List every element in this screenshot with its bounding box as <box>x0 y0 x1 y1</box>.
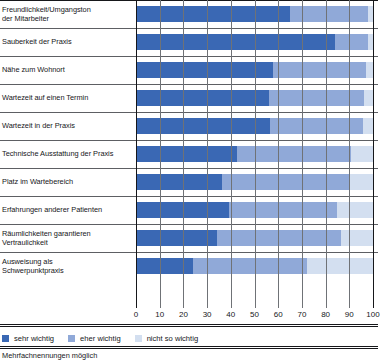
chart-row: Räumlichkeiten garantierenVertraulichkei… <box>0 224 378 252</box>
legend-label: nicht so wichtig <box>147 334 199 343</box>
chart-rows: Freundlichkeit/Umgangstonder Mitarbeiter… <box>0 0 378 308</box>
chart-row: Wartezeit in der Praxis <box>0 112 378 140</box>
bar-segment-3 <box>368 34 373 50</box>
category-label: Ausweisung alsSchwerpunktpraxis <box>2 252 132 280</box>
x-axis-tick-label: 40 <box>226 310 235 319</box>
bar-segment-3 <box>368 6 373 22</box>
category-label: Wartezeit auf einen Termin <box>2 84 132 112</box>
bar-segment-3 <box>363 118 373 134</box>
stacked-bar <box>136 258 373 274</box>
x-axis-tick-label: 60 <box>274 310 283 319</box>
category-label: Wartezeit in der Praxis <box>2 112 132 140</box>
stacked-bar <box>136 230 373 246</box>
bar-cell <box>136 224 373 252</box>
bar-segment-1 <box>136 90 269 106</box>
chart-row: Sauberkeit der Praxis <box>0 28 378 56</box>
category-label: Nähe zum Wohnort <box>2 56 132 84</box>
category-label-line: Wartezeit auf einen Termin <box>2 93 132 102</box>
x-axis-tick-label: 30 <box>203 310 212 319</box>
stacked-bar <box>136 6 373 22</box>
axis-rule-bottom <box>0 326 378 327</box>
bar-segment-2 <box>237 146 352 162</box>
bar-segment-1 <box>136 146 237 162</box>
chart-row: Nähe zum Wohnort <box>0 56 378 84</box>
x-axis-tick-label: 100 <box>366 310 379 319</box>
bar-cell <box>136 140 373 168</box>
chart-row: Technische Ausstattung der Praxis <box>0 140 378 168</box>
bar-segment-1 <box>136 230 217 246</box>
bar-cell <box>136 84 373 112</box>
chart-row: Platz im Wartebereich <box>0 168 378 196</box>
category-label: Räumlichkeiten garantierenVertraulichkei… <box>2 224 132 252</box>
legend-label: sehr wichtig <box>14 334 54 343</box>
category-label-line: Freundlichkeit/Umgangston <box>2 5 132 14</box>
chart-row: Wartezeit auf einen Termin <box>0 84 378 112</box>
category-label-line: Sauberkeit der Praxis <box>2 37 132 46</box>
chart-row: Erfahrungen anderer Patienten <box>0 196 378 224</box>
bar-segment-3 <box>364 90 373 106</box>
category-label-line: Vertraulichkeit <box>2 238 132 247</box>
bar-segment-2 <box>229 202 337 218</box>
bar-segment-3 <box>349 174 373 190</box>
bar-segment-3 <box>337 202 373 218</box>
category-label-line: Schwerpunktpraxis <box>2 266 132 275</box>
bar-segment-3 <box>366 62 373 78</box>
bar-segment-1 <box>136 34 335 50</box>
bar-segment-2 <box>222 174 349 190</box>
chart-row: Freundlichkeit/Umgangstonder Mitarbeiter <box>0 0 378 28</box>
category-label: Technische Ausstattung der Praxis <box>2 140 132 168</box>
bar-cell <box>136 168 373 196</box>
legend-item[interactable]: eher wichtig <box>68 334 121 343</box>
legend-swatch-icon <box>68 335 75 342</box>
legend-swatch-icon <box>135 335 142 342</box>
legend-rule-bottom <box>0 348 378 349</box>
bar-cell <box>136 112 373 140</box>
x-axis: 0102030405060708090100 <box>136 308 379 324</box>
bar-segment-2 <box>290 6 368 22</box>
bar-segment-2 <box>273 62 365 78</box>
x-axis-tick-label: 10 <box>155 310 164 319</box>
x-axis-tick-label: 20 <box>179 310 188 319</box>
bar-segment-2 <box>193 258 307 274</box>
bar-segment-2 <box>217 230 342 246</box>
category-label: Sauberkeit der Praxis <box>2 28 132 56</box>
x-axis-tick-label: 0 <box>134 310 138 319</box>
category-label: Freundlichkeit/Umgangstonder Mitarbeiter <box>2 0 132 28</box>
x-axis-tick-label: 80 <box>321 310 330 319</box>
category-label-line: Ausweisung als <box>2 257 132 266</box>
bar-segment-1 <box>136 6 290 22</box>
x-axis-tick-label: 70 <box>297 310 306 319</box>
stacked-bar <box>136 62 373 78</box>
bar-cell <box>136 196 373 224</box>
category-label-line: Räumlichkeiten garantieren <box>2 229 132 238</box>
legend-rule-top <box>0 346 378 347</box>
chart-plot-area: Freundlichkeit/Umgangstonder Mitarbeiter… <box>0 0 378 308</box>
bar-segment-1 <box>136 258 193 274</box>
bar-segment-2 <box>335 34 369 50</box>
stacked-bar <box>136 90 373 106</box>
legend-item[interactable]: nicht so wichtig <box>135 334 199 343</box>
category-label: Platz im Wartebereich <box>2 168 132 196</box>
bar-segment-3 <box>341 230 373 246</box>
chart-footnote: Mehrfachnennungen möglich <box>2 351 97 360</box>
x-axis-tick-label: 90 <box>345 310 354 319</box>
legend-swatch-icon <box>2 335 9 342</box>
chart-legend: sehr wichtigeher wichtignicht so wichtig <box>2 331 376 345</box>
bar-segment-1 <box>136 118 270 134</box>
category-label-line: Technische Ausstattung der Praxis <box>2 149 132 158</box>
stacked-bar <box>136 34 373 50</box>
legend-item[interactable]: sehr wichtig <box>2 334 54 343</box>
x-axis-tick-label: 50 <box>250 310 259 319</box>
stacked-bar <box>136 202 373 218</box>
bar-segment-1 <box>136 202 229 218</box>
bar-cell <box>136 56 373 84</box>
bar-cell <box>136 28 373 56</box>
category-label-line: Erfahrungen anderer Patienten <box>2 205 132 214</box>
bar-segment-3 <box>351 146 373 162</box>
bar-segment-2 <box>270 118 363 134</box>
category-label-line: Platz im Wartebereich <box>2 177 132 186</box>
bar-cell <box>136 0 373 28</box>
bar-segment-1 <box>136 62 273 78</box>
category-label: Erfahrungen anderer Patienten <box>2 196 132 224</box>
